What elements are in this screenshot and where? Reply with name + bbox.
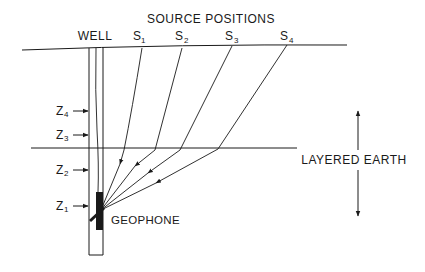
svg-text:Z: Z (56, 199, 63, 213)
depth-marker-z4: Z 4 (56, 104, 88, 119)
svg-text:S: S (175, 29, 183, 43)
ray-s1-upper (124, 48, 142, 150)
svg-text:S: S (225, 29, 233, 43)
svg-text:3: 3 (234, 36, 239, 45)
svg-text:S: S (133, 29, 141, 43)
svg-text:4: 4 (289, 36, 294, 45)
svg-text:3: 3 (64, 134, 69, 143)
svg-text:Z: Z (56, 163, 63, 177)
source-positions-title: SOURCE POSITIONS (147, 12, 275, 26)
ray-lower-segments (101, 149, 218, 210)
source-label-s1: S 1 (133, 29, 146, 45)
depth-marker-z2: Z 2 (56, 163, 88, 178)
depth-marker-z3: Z 3 (56, 128, 88, 143)
well-label: WELL (78, 29, 113, 43)
svg-text:2: 2 (184, 36, 189, 45)
svg-text:Z: Z (56, 104, 63, 118)
ray-s4-upper (218, 45, 287, 149)
ray-paths (124, 45, 287, 150)
svg-text:4: 4 (64, 110, 69, 119)
source-label-s3: S 3 (225, 29, 239, 45)
depth-marker-z1: Z 1 (56, 199, 88, 214)
svg-text:S: S (280, 29, 288, 43)
ground-surface-line (22, 45, 347, 50)
svg-text:1: 1 (141, 36, 146, 45)
vsp-diagram: SOURCE POSITIONS WELL S 1 S 2 S 3 S 4 GE… (0, 0, 425, 272)
geophone-icon (90, 192, 104, 230)
layered-earth-label: LAYERED EARTH (301, 153, 406, 167)
ray-s2-upper (155, 48, 182, 150)
geophone-label: GEOPHONE (111, 214, 180, 226)
source-label-s2: S 2 (175, 29, 189, 45)
ray-s3-upper (180, 46, 232, 150)
source-label-s4: S 4 (280, 29, 294, 45)
svg-text:1: 1 (64, 205, 69, 214)
svg-text:2: 2 (64, 169, 69, 178)
svg-text:Z: Z (56, 128, 63, 142)
